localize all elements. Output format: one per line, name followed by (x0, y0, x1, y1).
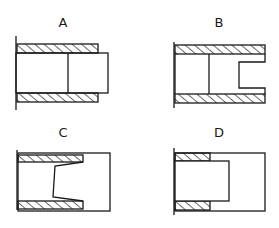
hatched-wall-top (17, 44, 98, 53)
hatched-wall-bottom (18, 201, 83, 209)
inner-plug (175, 161, 229, 201)
notch-profile (239, 54, 265, 94)
inner-plug (16, 53, 108, 93)
hatched-wall-bottom (175, 94, 265, 103)
panel-a: A (16, 15, 108, 110)
hatched-wall-top (18, 155, 83, 162)
panel-label-d: D (214, 125, 224, 140)
hatched-wall-top (175, 153, 210, 161)
tapered-cavity (53, 162, 83, 201)
panel-label-a: A (59, 15, 68, 30)
hatched-wall-bottom (175, 201, 210, 210)
panel-label-c: C (58, 125, 67, 140)
hatched-wall-bottom (17, 93, 98, 102)
hatched-wall-top (175, 45, 265, 54)
panel-d: D (174, 125, 265, 215)
diagram-canvas: A B C D (0, 0, 279, 228)
panel-b: B (174, 15, 265, 108)
panel-label-b: B (215, 15, 224, 30)
panel-c: C (17, 125, 110, 211)
